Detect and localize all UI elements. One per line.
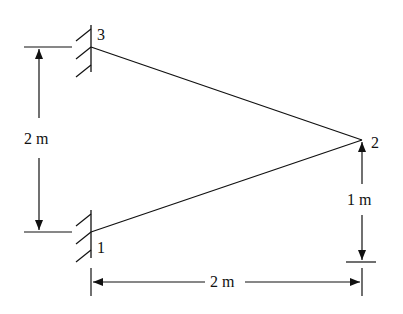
node-label-3: 3 — [95, 27, 107, 43]
member-1-2 — [91, 140, 362, 232]
dimension-label-right: 1 m — [345, 192, 373, 208]
dimension-label-left: 2 m — [22, 131, 50, 147]
fixed-support-node-3 — [76, 25, 91, 77]
node-label-2: 2 — [369, 135, 381, 151]
member-3-2 — [91, 47, 362, 140]
fixed-support-node-1 — [76, 210, 91, 262]
truss-diagram — [0, 0, 403, 314]
node-label-1: 1 — [95, 240, 107, 256]
dimension-label-bottom: 2 m — [208, 274, 236, 290]
